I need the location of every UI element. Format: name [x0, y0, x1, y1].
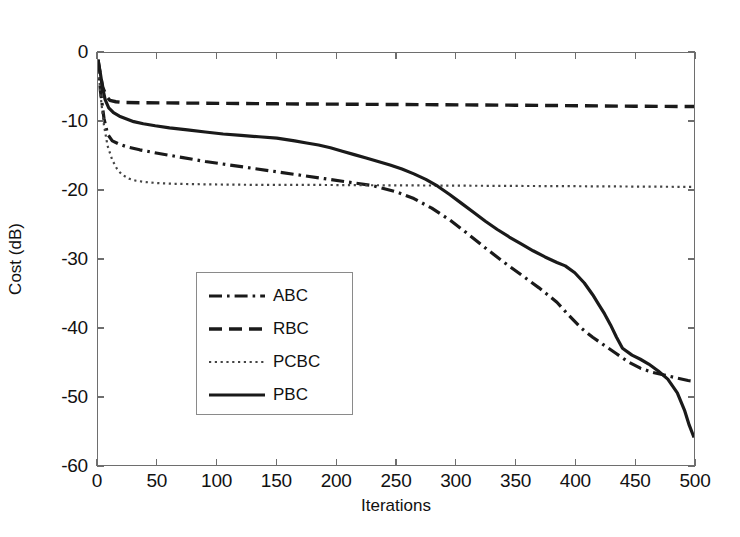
- x-tick-label-500: 500: [679, 470, 710, 492]
- series-line-pbc: [98, 60, 694, 438]
- y-tick-label-20: -20: [61, 179, 88, 201]
- x-tick-label-200: 200: [321, 470, 352, 492]
- legend-item-rbc[interactable]: RBC: [197, 312, 352, 345]
- legend-swatch-abc-icon: [208, 289, 266, 303]
- x-tick-150: [276, 459, 277, 466]
- x-tick-400: [575, 459, 576, 466]
- y-tick-label-0: 0: [78, 41, 88, 63]
- legend-item-pbc[interactable]: PBC: [197, 378, 352, 411]
- x-tick-label-300: 300: [440, 470, 471, 492]
- y-tick--40: [97, 327, 104, 328]
- x-tick-50: [156, 52, 157, 59]
- curves-layer: [98, 53, 694, 465]
- legend-item-pcbc[interactable]: PCBC: [197, 345, 352, 378]
- x-tick-label-350: 350: [500, 470, 531, 492]
- x-tick-450: [635, 459, 636, 466]
- x-tick-label-150: 150: [261, 470, 292, 492]
- legend-swatch-pcbc-icon: [208, 355, 266, 369]
- legend-swatch-pbc-icon: [208, 388, 266, 402]
- legend-item-abc[interactable]: ABC: [197, 279, 352, 312]
- x-tick-label-100: 100: [201, 470, 232, 492]
- x-tick-100: [216, 52, 217, 59]
- x-tick-label-0: 0: [92, 470, 102, 492]
- x-tick-label-50: 50: [146, 470, 167, 492]
- x-tick-300: [455, 52, 456, 59]
- y-tick--50: [97, 396, 104, 397]
- y-tick-0: [97, 51, 104, 52]
- x-axis-title: Iterations: [361, 496, 431, 516]
- x-tick-100: [216, 459, 217, 466]
- x-tick-350: [515, 52, 516, 59]
- x-tick-450: [635, 52, 636, 59]
- y-tick--60: [97, 465, 104, 466]
- x-tick-400: [575, 52, 576, 59]
- y-tick--30: [97, 258, 104, 259]
- x-tick-50: [156, 459, 157, 466]
- y-tick-label-30: -30: [61, 248, 88, 270]
- x-tick-label-450: 450: [620, 470, 651, 492]
- series-line-abc: [98, 60, 694, 381]
- y-tick--30: [688, 258, 695, 259]
- x-tick-0: [96, 52, 97, 59]
- x-tick-label-400: 400: [560, 470, 591, 492]
- legend-box: ABCRBCPCBCPBC: [196, 272, 353, 415]
- legend-swatch-rbc-icon: [208, 322, 266, 336]
- y-tick-label-40: -40: [61, 317, 88, 339]
- x-tick-250: [395, 459, 396, 466]
- y-tick--20: [97, 189, 104, 190]
- y-axis-title: Cost (dB): [6, 223, 26, 295]
- y-tick--60: [688, 465, 695, 466]
- y-tick--10: [688, 120, 695, 121]
- x-tick-350: [515, 459, 516, 466]
- series-line-rbc: [98, 60, 694, 107]
- legend-label: ABC: [273, 286, 308, 306]
- x-tick-300: [455, 459, 456, 466]
- y-tick--50: [688, 396, 695, 397]
- x-tick-200: [336, 459, 337, 466]
- y-tick-0: [688, 51, 695, 52]
- x-tick-150: [276, 52, 277, 59]
- y-tick-label-50: -50: [61, 386, 88, 408]
- y-tick-label-10: -10: [61, 110, 88, 132]
- x-tick-label-250: 250: [380, 470, 411, 492]
- y-tick--10: [97, 120, 104, 121]
- y-tick--20: [688, 189, 695, 190]
- x-tick-500: [694, 52, 695, 59]
- legend-label: PBC: [273, 385, 308, 405]
- cost-convergence-chart: 0501001502002503003504004505000-10-20-30…: [0, 0, 740, 537]
- y-tick-label-60: -60: [61, 455, 88, 477]
- x-tick-200: [336, 52, 337, 59]
- plot-area: [97, 52, 695, 466]
- x-tick-250: [395, 52, 396, 59]
- legend-label: PCBC: [273, 352, 320, 372]
- y-tick--40: [688, 327, 695, 328]
- legend-label: RBC: [273, 319, 309, 339]
